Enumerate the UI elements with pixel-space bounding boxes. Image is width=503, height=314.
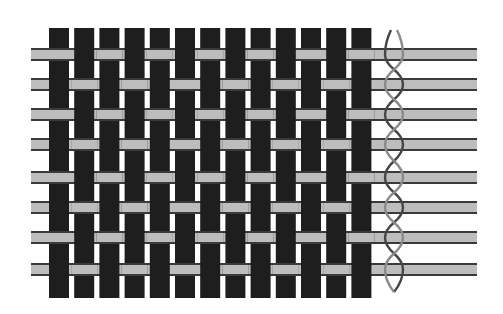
weft-float [122,201,148,214]
warp-thread [276,28,296,298]
warp-thread [99,28,119,298]
warps-layer [49,28,371,298]
weft-float [172,201,198,214]
weft-float [46,48,72,61]
weft-float [197,231,223,244]
weft-float [323,78,349,91]
weft-float [348,48,374,61]
weft-float [248,231,274,244]
weft-float [46,108,72,121]
weft-float [197,171,223,184]
weft-float [96,231,122,244]
warp-thread [125,28,145,298]
weft-float [122,263,148,276]
weft-float [71,138,97,151]
weft-float [222,78,248,91]
weft-float [122,78,148,91]
weft-float [323,263,349,276]
weft-float [96,48,122,61]
leno-selvage [385,30,403,292]
weft-float [172,78,198,91]
weft-float [323,201,349,214]
weft-float [273,78,299,91]
weft-float [71,263,97,276]
weft-float [273,201,299,214]
warp-thread [225,28,245,298]
weft-float [46,171,72,184]
weft-float [96,108,122,121]
warp-thread [251,28,271,298]
weft-float [172,138,198,151]
warp-thread [150,28,170,298]
warp-thread [74,28,94,298]
warp-thread [49,28,69,298]
weft-float [71,201,97,214]
leno-thread-light [385,30,403,292]
warp-thread [301,28,321,298]
weft-float [298,48,324,61]
weft-float [147,108,173,121]
weft-float [323,138,349,151]
warp-thread [326,28,346,298]
weft-float [348,108,374,121]
weft-float [348,231,374,244]
weft-float [71,78,97,91]
weft-float [273,263,299,276]
weft-float [147,231,173,244]
weft-float [147,48,173,61]
weft-float [298,231,324,244]
weft-float [348,171,374,184]
weft-float [248,171,274,184]
weft-float [273,138,299,151]
weft-float [222,201,248,214]
weft-float [248,48,274,61]
warp-thread [200,28,220,298]
weft-float [197,48,223,61]
weave-diagram [0,0,503,314]
weft-float [222,263,248,276]
weft-float [298,171,324,184]
weft-float [298,108,324,121]
weft-float [197,108,223,121]
weft-float [172,263,198,276]
weft-float [147,171,173,184]
weft-float [96,171,122,184]
weft-float [122,138,148,151]
weft-float [248,108,274,121]
warp-thread [175,28,195,298]
weft-float [222,138,248,151]
weft-float [46,231,72,244]
warp-thread [351,28,371,298]
